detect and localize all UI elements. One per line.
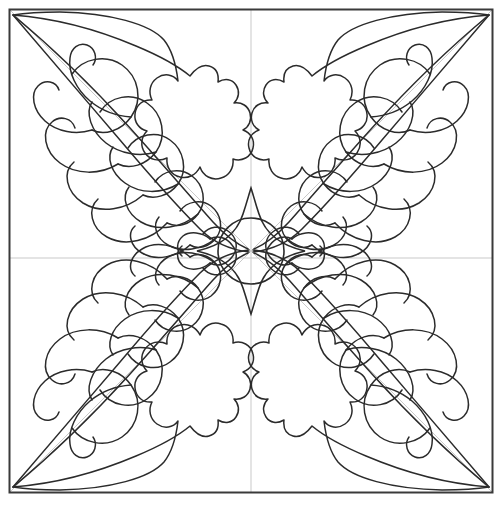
pattern-canvas — [0, 0, 500, 517]
quilting-pattern-drawing — [0, 0, 500, 517]
